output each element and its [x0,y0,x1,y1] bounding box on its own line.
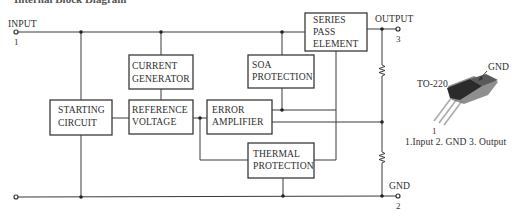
svg-text:GND: GND [389,180,410,191]
svg-text:REFERENCE: REFERENCE [132,104,188,115]
svg-text:2: 2 [396,201,401,211]
block-series-pass-element: SERIES PASS ELEMENT [305,13,367,51]
terminal-gnd: GND 2 [389,180,410,211]
svg-text:CURRENT: CURRENT [132,60,178,71]
block-current-generator: CURRENT GENERATOR [129,55,193,89]
svg-text:1: 1 [432,126,437,136]
svg-text:ERROR: ERROR [212,104,245,115]
block-reference-voltage: REFERENCE VOLTAGE [129,100,193,134]
svg-text:CIRCUIT: CIRCUIT [58,117,97,128]
ground-rail [18,196,396,197]
svg-text:VOLTAGE: VOLTAGE [132,116,176,127]
svg-text:SERIES: SERIES [313,14,346,25]
block-thermal-protection: THERMAL PROTECTION [248,143,314,178]
diagram-title: Internal Block Diagram [14,0,126,5]
svg-text:STARTING: STARTING [58,104,105,115]
regulator-block-diagram: Internal Block Diagram [0,0,528,216]
block-starting-circuit: STARTING CIRCUIT [50,100,112,135]
svg-text:PROTECTION: PROTECTION [253,160,314,171]
block-error-amplifier: ERROR AMPLIFIER [207,100,272,134]
svg-text:1: 1 [14,37,19,47]
svg-text:GENERATOR: GENERATOR [132,73,190,84]
terminal-ground-left [14,195,18,199]
block-soa-protection: SOA PROTECTION [248,55,314,88]
svg-text:OUTPUT: OUTPUT [375,13,413,24]
resistor-lower-icon [379,150,385,165]
svg-text:1.Input 2. GND 3. Output: 1.Input 2. GND 3. Output [405,136,506,147]
svg-text:PROTECTION: PROTECTION [252,71,313,82]
svg-text:SOA: SOA [252,59,272,70]
svg-text:THERMAL: THERMAL [253,148,300,159]
package-body-icon [447,74,498,104]
svg-text:3: 3 [396,34,401,44]
svg-text:ELEMENT: ELEMENT [313,38,358,49]
svg-text:TO-220: TO-220 [417,78,448,89]
svg-text:Internal Block Diagram: Internal Block Diagram [14,0,126,5]
svg-text:INPUT: INPUT [8,18,37,29]
to220-package: TO-220 GND 1 1.Input 2. GND 3. Output [405,61,509,147]
resistor-upper-icon [379,63,385,78]
svg-text:GND: GND [488,61,509,72]
svg-text:AMPLIFIER: AMPLIFIER [212,116,264,127]
svg-text:PASS: PASS [313,26,335,37]
